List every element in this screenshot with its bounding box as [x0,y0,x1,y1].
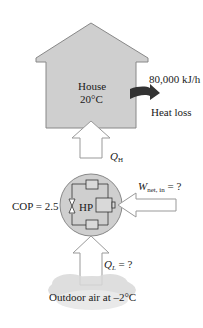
house-label: House [78,80,106,92]
heat-loss-rate: 80,000 kJ/h [149,73,200,85]
q-high-label: QH [110,150,123,166]
work-label: Wnet, in = ? [138,180,181,196]
heat-loss-label: Heat loss [151,106,192,118]
outdoor-label: Outdoor air at –2°C [49,291,136,303]
heat-pump-diagram [0,0,203,328]
house-temperature: 20°C [80,93,103,105]
q-low-label: QL = ? [104,258,132,274]
work-arrow [118,193,176,217]
house-shape [36,23,148,128]
hp-label: HP [79,201,93,213]
cop-label: COP = 2.5 [12,200,58,212]
